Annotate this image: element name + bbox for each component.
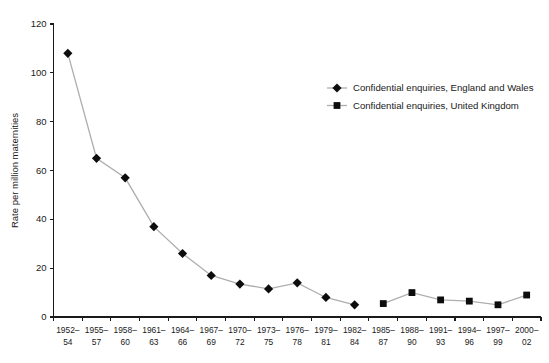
y-axis-tick-label: 100 <box>31 67 47 78</box>
x-axis-tick-label: 1967– <box>200 325 224 335</box>
x-axis: 1952–541955–571958–601961–631964–661967–… <box>54 317 542 347</box>
x-axis-tick-label: 84 <box>350 337 360 347</box>
y-axis-tick-label: 60 <box>36 165 47 176</box>
y-axis-tick-label: 80 <box>36 116 47 127</box>
data-point-marker <box>409 289 416 296</box>
y-axis-title: Rate per million maternities <box>9 113 20 228</box>
x-axis-tick-label: 81 <box>321 337 331 347</box>
x-axis-tick-label: 1997– <box>486 325 510 335</box>
x-axis-tick-label: 1973– <box>257 325 281 335</box>
data-point-marker <box>350 300 359 309</box>
x-axis-tick-label: 1970– <box>228 325 252 335</box>
series-line <box>383 293 526 305</box>
x-axis-tick-label: 1982– <box>343 325 367 335</box>
data-point-marker <box>235 279 244 288</box>
x-axis-tick-label: 1976– <box>286 325 310 335</box>
x-axis-tick-label: 63 <box>149 337 159 347</box>
data-point-marker <box>92 154 101 163</box>
data-point-marker <box>63 49 72 58</box>
legend-marker-square <box>334 102 341 109</box>
legend-item-label: Confidential enquiries, United Kingdom <box>353 100 519 111</box>
x-axis-tick-label: 1985– <box>372 325 396 335</box>
x-axis-tick-label: 02 <box>522 337 532 347</box>
data-point-marker <box>121 173 130 182</box>
y-axis-title-label: Rate per million maternities <box>9 113 20 228</box>
x-axis-tick-label: 1952– <box>56 325 80 335</box>
y-axis: 020406080100120 <box>31 18 54 322</box>
x-axis-tick-label: 69 <box>207 337 217 347</box>
x-axis-tick-label: 1988– <box>400 325 424 335</box>
chart-legend: Confidential enquiries, England and Wale… <box>327 82 534 111</box>
x-axis-tick-label: 90 <box>407 337 417 347</box>
x-axis-tick-label: 1964– <box>171 325 195 335</box>
x-axis-tick-label: 60 <box>121 337 131 347</box>
data-point-marker <box>495 301 502 308</box>
data-point-marker <box>466 298 473 305</box>
x-axis-tick-label: 75 <box>264 337 274 347</box>
x-axis-tick-label: 1979– <box>314 325 338 335</box>
series-1 <box>63 49 359 310</box>
data-point-marker <box>523 292 530 299</box>
x-axis-tick-label: 66 <box>178 337 188 347</box>
data-point-marker <box>293 278 302 287</box>
series-2 <box>380 289 530 308</box>
y-axis-tick-label: 20 <box>36 262 47 273</box>
legend-marker-diamond <box>332 83 341 92</box>
data-point-marker <box>437 297 444 304</box>
x-axis-tick-label: 93 <box>436 337 446 347</box>
x-axis-tick-label: 78 <box>293 337 303 347</box>
x-axis-tick-label: 1955– <box>85 325 109 335</box>
x-axis-tick-label: 2000– <box>515 325 539 335</box>
legend-item-label: Confidential enquiries, England and Wale… <box>353 82 534 93</box>
series-line <box>68 53 355 304</box>
x-axis-tick-label: 99 <box>493 337 503 347</box>
x-axis-tick-label: 57 <box>92 337 102 347</box>
data-point-marker <box>380 300 387 307</box>
x-axis-tick-label: 1958– <box>114 325 138 335</box>
data-point-marker <box>321 293 330 302</box>
x-axis-tick-label: 1994– <box>458 325 482 335</box>
y-axis-tick-label: 40 <box>36 213 47 224</box>
line-chart: 020406080100120 1952–541955–571958–60196… <box>0 0 549 363</box>
legend-item: Confidential enquiries, United Kingdom <box>327 100 519 111</box>
x-axis-tick-label: 72 <box>235 337 245 347</box>
data-point-marker <box>264 284 273 293</box>
x-axis-tick-label: 54 <box>63 337 73 347</box>
legend-item: Confidential enquiries, England and Wale… <box>327 82 534 93</box>
x-axis-tick-label: 96 <box>465 337 475 347</box>
x-axis-tick-label: 1991– <box>429 325 453 335</box>
x-axis-tick-label: 1961– <box>142 325 166 335</box>
x-axis-tick-label: 87 <box>379 337 389 347</box>
y-axis-tick-label: 120 <box>31 18 47 29</box>
chart-container: 020406080100120 1952–541955–571958–60196… <box>0 0 549 363</box>
y-axis-tick-label: 0 <box>41 311 46 322</box>
